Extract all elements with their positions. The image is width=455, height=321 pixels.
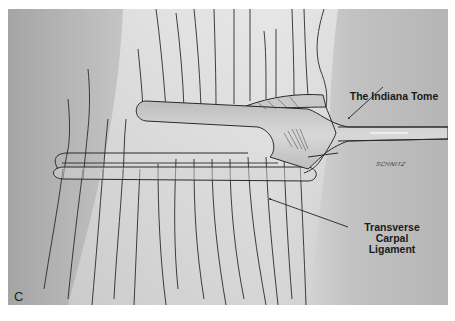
instrument-guide — [54, 167, 317, 181]
carpal-tunnel-drawing — [8, 9, 448, 305]
label-line: Ligament — [352, 244, 432, 255]
panel-letter: C — [14, 289, 23, 304]
artist-signature: SCHNITZ — [375, 161, 406, 167]
label-indiana-tome: The Indiana Tome — [350, 91, 438, 102]
illustration: The Indiana Tome Transverse Carpal Ligam… — [8, 9, 448, 305]
label-transverse-carpal-ligament: Transverse Carpal Ligament — [352, 222, 432, 255]
